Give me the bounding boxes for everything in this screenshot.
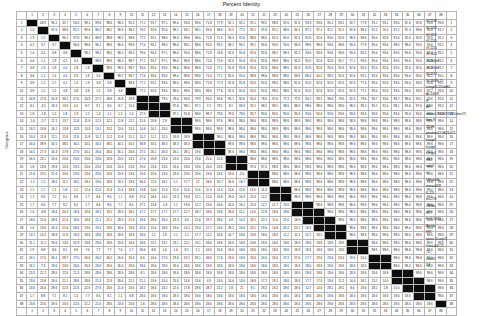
row-header-right-37[interactable]: 37 [446,292,456,300]
matrix-cell-13-19[interactable]: 79.6 [225,110,236,118]
matrix-cell-31-5[interactable]: 8.6 [71,247,82,255]
matrix-cell-33-26[interactable]: 18.6 [303,262,314,270]
row-header-left-18[interactable]: 18 [17,148,27,156]
matrix-cell-22-34[interactable]: 98.6 [391,179,402,187]
matrix-cell-31-22[interactable]: 18.6 [258,247,269,255]
matrix-cell-5-10[interactable]: 98.2 [126,49,137,57]
matrix-cell-15-27[interactable]: 98.6 [314,125,325,133]
matrix-cell-30-18[interactable]: 18.6 [214,239,225,247]
matrix-cell-diagonal-18-18[interactable] [214,148,225,156]
matrix-cell-30-7[interactable]: 29.6 [93,239,104,247]
matrix-cell-26-33[interactable]: 98.6 [380,209,391,217]
matrix-cell-highlight-13-12[interactable]: 6.5 [148,110,159,118]
matrix-cell-26-35[interactable]: 98.6 [402,209,413,217]
matrix-cell-22-26[interactable]: 98.6 [303,179,314,187]
matrix-cell-35-26[interactable]: 17.7 [303,277,314,285]
sequence-name-21[interactable]: hungri1 [425,150,483,157]
matrix-cell-9-5[interactable]: 1.4 [71,80,82,88]
row-header-left-30[interactable]: 30 [17,239,27,247]
matrix-cell-36-9[interactable]: 21.6 [115,285,126,293]
column-header-27[interactable]: 27 [314,12,325,20]
matrix-cell-35-16[interactable]: 23.6 [192,277,203,285]
matrix-cell-8-15[interactable]: 98.6 [181,72,192,80]
matrix-cell-16-3[interactable]: 11.5 [49,133,60,141]
matrix-cell-28-19[interactable]: 28.2 [225,224,236,232]
matrix-cell-36-18[interactable]: 22.2 [214,285,225,293]
matrix-cell-35-3[interactable]: 24.6 [49,277,60,285]
matrix-cell-12-23[interactable]: 98.5 [270,103,281,111]
matrix-cell-21-10[interactable]: 23.6 [126,171,137,179]
sequence-name-23[interactable]: noliz3 [425,163,483,170]
matrix-cell-18-4[interactable]: 27.8 [60,148,71,156]
matrix-cell-36-11[interactable]: 28.2 [137,285,148,293]
matrix-cell-17-27[interactable]: 98.6 [314,141,325,149]
matrix-cell-3-5[interactable]: 97.6 [71,34,82,42]
matrix-cell-28-30[interactable]: 98.6 [347,224,358,232]
matrix-cell-9-26[interactable]: 92.6 [303,80,314,88]
matrix-cell-26-1[interactable]: 1.6 [27,209,38,217]
matrix-cell-11-5[interactable]: 27.6 [71,95,82,103]
matrix-cell-11-35[interactable]: 98.6 [402,95,413,103]
matrix-cell-27-9[interactable]: 28.6 [115,217,126,225]
matrix-cell-18-31[interactable]: 98.6 [358,148,369,156]
matrix-cell-16-29[interactable]: 98.6 [336,133,347,141]
column-header-8[interactable]: 8 [104,12,115,20]
matrix-cell-17-26[interactable]: 98.6 [303,141,314,149]
matrix-cell-21-4[interactable]: 23.6 [60,171,71,179]
matrix-cell-diagonal-31-31[interactable] [358,247,369,255]
matrix-cell-20-10[interactable]: 23.6 [126,163,137,171]
matrix-cell-27-12[interactable]: 28.6 [148,217,159,225]
matrix-cell-26-9[interactable]: 18.6 [115,209,126,217]
matrix-cell-24-10[interactable]: 8.8 [126,194,137,202]
matrix-cell-14-31[interactable]: 98.6 [358,118,369,126]
matrix-cell-diagonal-27-27[interactable] [314,217,325,225]
matrix-cell-28-5[interactable]: 28.6 [71,224,82,232]
matrix-cell-12-29[interactable]: 98.6 [336,103,347,111]
matrix-cell-36-28[interactable]: 28.2 [325,285,336,293]
matrix-cell-1-15[interactable]: 93.6 [181,19,192,27]
matrix-cell-34-9[interactable]: 28.6 [115,270,126,278]
matrix-cell-16-21[interactable]: 98.6 [247,133,258,141]
matrix-cell-20-32[interactable]: 98.6 [369,163,380,171]
matrix-cell-25-33[interactable]: 98.6 [380,201,391,209]
matrix-cell-38-33[interactable]: 28.6 [380,300,391,308]
matrix-cell-22-35[interactable]: 98.6 [402,179,413,187]
matrix-cell-5-28[interactable]: 93.6 [325,49,336,57]
matrix-cell-17-24[interactable]: 98.6 [281,141,292,149]
matrix-cell-30-15[interactable]: 22.1 [181,239,192,247]
matrix-cell-21-5[interactable]: 23.6 [71,171,82,179]
matrix-cell-1-29[interactable]: 93.1 [336,19,347,27]
matrix-cell-33-30[interactable]: 18.6 [347,262,358,270]
matrix-cell-28-14[interactable]: 19.6 [170,224,181,232]
matrix-cell-24-13[interactable]: 13.6 [159,194,170,202]
row-header-left-22[interactable]: 22 [17,179,27,187]
matrix-cell-27-8[interactable]: 21.2 [104,217,115,225]
matrix-cell-4-13[interactable]: 98.6 [159,42,170,50]
matrix-cell-30-16[interactable]: 23.1 [192,239,203,247]
matrix-cell-highlight-30-31[interactable]: 98.6 [358,239,369,247]
column-header-14[interactable]: 14 [170,12,181,20]
matrix-cell-12-21[interactable]: 92.1 [247,103,258,111]
matrix-cell-23-4[interactable]: 1.8 [60,186,71,194]
matrix-cell-28-24[interactable]: 20.2 [281,224,292,232]
matrix-cell-29-13[interactable]: 1.8 [159,232,170,240]
matrix-cell-5-3[interactable]: 3.8 [49,49,60,57]
matrix-cell-17-21[interactable]: 98.6 [247,141,258,149]
matrix-cell-33-29[interactable]: 18.6 [336,262,347,270]
matrix-cell-9-28[interactable]: 92.6 [325,80,336,88]
matrix-cell-8-12[interactable]: 93.6 [148,72,159,80]
column-header-19[interactable]: 19 [225,12,236,20]
column-header-16[interactable]: 16 [192,308,203,316]
matrix-cell-7-10[interactable]: 98.7 [126,65,137,73]
matrix-cell-diagonal-4-4[interactable] [60,42,71,50]
matrix-cell-10-20[interactable]: 91.6 [236,87,247,95]
matrix-cell-38-27[interactable]: 28.6 [314,300,325,308]
matrix-cell-highlight-22-21[interactable]: 18.6 [247,179,258,187]
matrix-cell-17-11[interactable]: 38.8 [137,141,148,149]
matrix-cell-36-13[interactable]: 24.2 [159,285,170,293]
matrix-cell-37-14[interactable]: 18.6 [170,292,181,300]
matrix-cell-6-35[interactable]: 93.6 [402,57,413,65]
matrix-cell-31-9[interactable]: 7.6 [115,247,126,255]
matrix-cell-15-23[interactable]: 98.6 [270,125,281,133]
sequence-name-3[interactable]: GI 1114 [425,32,483,39]
